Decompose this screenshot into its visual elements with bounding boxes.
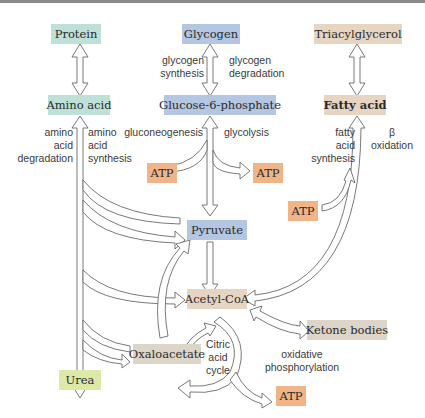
svg-text:Glucose-6-phosphate: Glucose-6-phosphate [159, 98, 281, 112]
svg-text:ATP: ATP [278, 389, 302, 403]
svg-text:Amino acid: Amino acid [45, 98, 112, 112]
label-oxidative-phosphorylation: oxidative phosphorylation [265, 348, 339, 373]
arrow-pyruvate-acetyl [202, 242, 218, 296]
node-atp-left: ATP [147, 163, 177, 183]
label-glycogen-synthesis: glycogen synthesis [160, 54, 204, 79]
svg-text:amino: amino [88, 126, 117, 138]
node-atp-right: ATP [253, 163, 283, 183]
svg-text:acid: acid [88, 139, 107, 151]
svg-text:oxidation: oxidation [371, 139, 413, 151]
node-urea: Urea [59, 370, 101, 390]
svg-text:ATP: ATP [255, 166, 279, 180]
node-glycogen: Glycogen [182, 24, 240, 44]
pathway-diagram: Protein Glycogen Triacylglycerol Amino a… [0, 0, 425, 418]
node-fatty-acid: Fatty acid [323, 95, 386, 115]
svg-text:Glycogen: Glycogen [184, 27, 239, 41]
svg-text:acid: acid [336, 139, 355, 151]
svg-text:amino: amino [44, 126, 73, 138]
svg-text:phosphorylation: phosphorylation [265, 361, 339, 373]
node-glucose-6-phosphate: Glucose-6-phosphate [159, 95, 281, 115]
svg-text:Triacylglycerol: Triacylglycerol [314, 27, 402, 41]
svg-text:degradation: degradation [18, 152, 74, 164]
node-oxaloacetate: Oxaloacetate [129, 344, 206, 364]
node-atp-bottom: ATP [276, 386, 306, 406]
svg-text:Pyruvate: Pyruvate [191, 223, 243, 237]
svg-text:Protein: Protein [55, 27, 98, 41]
svg-text:glycogen: glycogen [162, 54, 204, 66]
svg-text:synthesis: synthesis [160, 67, 204, 79]
label-glycogen-degradation: glycogen degradation [229, 54, 285, 79]
arrow-tag-fatty [349, 44, 365, 96]
label-beta-oxidation: β oxidation [371, 126, 413, 151]
svg-text:acid: acid [208, 351, 227, 363]
svg-text:acid: acid [54, 139, 73, 151]
arrow-amino-pyruvate-2 [83, 200, 185, 249]
arrow-protein-amino [72, 44, 88, 96]
node-protein: Protein [51, 24, 101, 44]
svg-text:Fatty acid: Fatty acid [323, 98, 386, 112]
label-gluconeogenesis: gluconeogenesis [124, 126, 203, 138]
svg-text:Oxaloacetate: Oxaloacetate [129, 347, 206, 361]
arrow-glycolysis-atp [213, 150, 250, 179]
svg-text:ATP: ATP [149, 166, 173, 180]
svg-text:glycogen: glycogen [229, 54, 271, 66]
node-atp-fatty: ATP [288, 201, 318, 221]
svg-text:oxidative: oxidative [281, 348, 323, 360]
node-ketone-bodies: Ketone bodies [306, 320, 389, 340]
label-citric-acid-cycle: Citric acid cycle [206, 338, 230, 376]
svg-text:Citric: Citric [206, 338, 230, 350]
label-amino-acid-degradation: amino acid degradation [18, 126, 74, 164]
arrow-cycle-oxphos [230, 372, 272, 408]
svg-text:fatty: fatty [335, 126, 356, 138]
node-pyruvate: Pyruvate [187, 220, 247, 240]
label-glycolysis: glycolysis [224, 126, 269, 138]
svg-text:ATP: ATP [290, 204, 314, 218]
node-amino-acid: Amino acid [45, 95, 112, 115]
svg-text:synthesis: synthesis [88, 152, 132, 164]
label-fatty-acid-synthesis: fatty acid synthesis [311, 126, 356, 164]
svg-text:degradation: degradation [229, 67, 285, 79]
svg-text:Ketone bodies: Ketone bodies [306, 323, 389, 337]
svg-text:cycle: cycle [206, 364, 230, 376]
node-acetyl-coa: Acetyl-CoA [184, 289, 250, 309]
svg-text:β: β [389, 126, 395, 138]
arrow-oxalo-pyruvate [158, 240, 191, 338]
svg-text:synthesis: synthesis [311, 152, 355, 164]
svg-text:Acetyl-CoA: Acetyl-CoA [184, 292, 250, 306]
svg-text:Urea: Urea [66, 373, 95, 387]
node-triacylglycerol: Triacylglycerol [314, 24, 402, 44]
arrow-amino-urea [72, 116, 88, 398]
arrow-acetyl-ketone [250, 306, 309, 339]
arrow-glycogen-g6p [202, 44, 218, 96]
